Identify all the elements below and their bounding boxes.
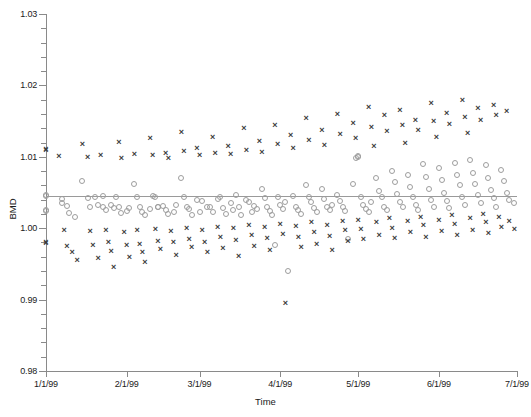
y-tick-label: 0.99	[20, 295, 37, 305]
data-point-circle	[210, 209, 216, 215]
data-point-circle	[290, 193, 296, 199]
data-point-x: ×	[292, 222, 300, 230]
data-point-x: ×	[89, 241, 97, 249]
y-tick-label: 1.02	[20, 80, 37, 90]
data-point-x: ×	[464, 129, 472, 137]
data-point-circle	[126, 205, 132, 211]
x-tick	[127, 371, 128, 377]
data-point-x: ×	[227, 150, 235, 158]
data-point-x: ×	[365, 103, 373, 111]
data-point-circle	[329, 202, 335, 208]
data-point-x: ×	[266, 246, 274, 254]
data-point-x: ×	[117, 154, 125, 162]
data-point-x: ×	[443, 109, 451, 117]
data-point-circle	[189, 212, 195, 218]
data-point-x: ×	[297, 243, 305, 251]
y-tick-label: 0.98	[20, 366, 37, 376]
data-point-x: ×	[242, 146, 250, 154]
data-point-x: ×	[120, 228, 128, 236]
data-point-circle	[483, 162, 489, 168]
data-point-x: ×	[414, 126, 422, 134]
data-point-x: ×	[435, 216, 443, 224]
data-point-x: ×	[357, 225, 365, 233]
data-point-circle	[285, 268, 291, 274]
data-point-x: ×	[352, 134, 360, 142]
scatter-plot-figure: BMD Time 0.980.991.001.011.021.03 ××××××…	[0, 0, 531, 417]
data-point-circle	[491, 195, 497, 201]
data-point-x: ×	[458, 96, 466, 104]
data-point-x: ×	[370, 142, 378, 150]
data-point-circle	[493, 204, 499, 210]
data-point-x: ×	[469, 226, 477, 234]
data-point-circle	[319, 186, 325, 192]
data-point-circle	[368, 199, 374, 205]
data-point-circle	[355, 154, 361, 160]
data-point-circle	[379, 194, 385, 200]
data-point-circle	[85, 195, 91, 201]
data-point-x: ×	[451, 220, 459, 228]
data-point-x: ×	[383, 127, 391, 135]
data-point-x: ×	[375, 231, 383, 239]
data-point-x: ×	[235, 252, 243, 260]
data-point-x: ×	[396, 106, 404, 114]
data-point-x: ×	[78, 140, 86, 148]
data-point-circle	[485, 175, 491, 181]
data-point-circle	[116, 204, 122, 210]
data-point-x: ×	[107, 247, 115, 255]
data-point-circle	[43, 208, 49, 214]
data-point-x: ×	[432, 133, 440, 141]
y-tick	[39, 300, 46, 301]
data-point-circle	[233, 192, 239, 198]
data-point-x: ×	[125, 253, 133, 261]
data-point-x: ×	[102, 226, 110, 234]
data-point-x: ×	[42, 145, 50, 153]
data-point-x: ×	[216, 233, 224, 241]
data-point-circle	[441, 190, 447, 196]
data-point-x: ×	[484, 229, 492, 237]
data-point-circle	[282, 199, 288, 205]
data-point-circle	[280, 206, 286, 212]
data-point-x: ×	[172, 251, 180, 259]
data-point-x: ×	[279, 230, 287, 238]
data-point-x: ×	[497, 223, 505, 231]
data-point-x: ×	[274, 140, 282, 148]
data-point-x: ×	[412, 116, 420, 124]
data-point-x: ×	[388, 224, 396, 232]
data-point-x: ×	[255, 137, 263, 145]
data-point-x: ×	[201, 238, 209, 246]
data-point-circle	[238, 212, 244, 218]
x-tick-label: 6/1/99	[427, 379, 451, 389]
data-point-circle	[259, 186, 265, 192]
data-point-circle	[407, 184, 413, 190]
x-tick	[517, 371, 518, 377]
y-tick	[39, 14, 46, 15]
data-point-x: ×	[258, 148, 266, 156]
data-point-x: ×	[84, 153, 92, 161]
data-point-x: ×	[453, 231, 461, 239]
data-point-x: ×	[211, 149, 219, 157]
data-point-circle	[392, 179, 398, 185]
data-point-circle	[262, 195, 268, 201]
data-point-x: ×	[289, 144, 297, 152]
data-point-x: ×	[344, 237, 352, 245]
data-point-x: ×	[188, 243, 196, 251]
data-point-circle	[366, 209, 372, 215]
data-point-x: ×	[310, 228, 318, 236]
data-point-circle	[181, 194, 187, 200]
data-point-x: ×	[183, 224, 191, 232]
data-point-x: ×	[359, 235, 367, 243]
data-point-x: ×	[307, 218, 315, 226]
data-point-x: ×	[349, 119, 357, 127]
data-point-circle	[454, 172, 460, 178]
data-point-x: ×	[167, 227, 175, 235]
data-point-x: ×	[482, 218, 490, 226]
data-point-x: ×	[490, 101, 498, 109]
data-point-x: ×	[263, 234, 271, 242]
data-point-circle	[43, 192, 49, 198]
data-point-x: ×	[219, 244, 227, 252]
data-point-circle	[92, 194, 98, 200]
data-point-x: ×	[474, 104, 482, 112]
data-point-x: ×	[341, 226, 349, 234]
data-point-circle	[217, 194, 223, 200]
data-point-x: ×	[250, 242, 258, 250]
